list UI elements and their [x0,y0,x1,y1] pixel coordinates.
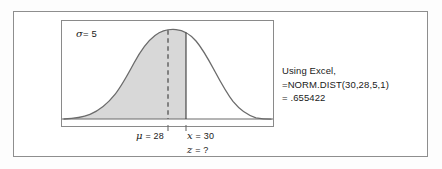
plot-box: σ= 5 [61,20,274,127]
excel-result: = .655422 [282,91,389,105]
x-symbol: x [187,130,193,141]
excel-formula: =NORM.DIST(30,28,5,1) [282,78,389,92]
z-symbol: z [187,144,192,155]
x-value: = 30 [196,131,215,141]
figure-root: σ= 5 μ = 28 x = 30 z = ? Using Excel, =N… [0,0,442,169]
outer-frame: σ= 5 μ = 28 x = 30 z = ? Using Excel, =N… [13,11,428,157]
sigma-label: σ= 5 [76,28,97,39]
z-value: = ? [195,145,208,155]
mu-symbol: μ [136,130,143,141]
sigma-value: = 5 [83,28,97,39]
z-value-label: z = ? [187,144,209,155]
mean-label: μ = 28 [136,130,164,141]
sigma-symbol: σ [76,28,83,39]
axis-ticks [61,125,274,132]
mu-value: = 28 [145,131,164,141]
excel-annotation: Using Excel, =NORM.DIST(30,28,5,1) = .65… [282,64,389,105]
x-value-label: x = 30 [187,130,214,141]
excel-line-intro: Using Excel, [282,64,389,78]
